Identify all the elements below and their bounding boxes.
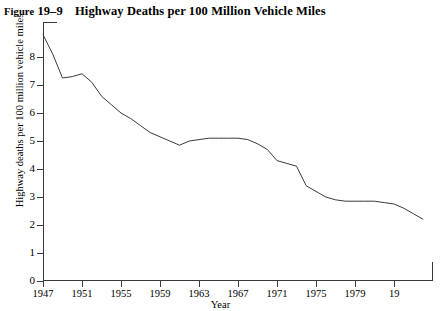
figure-container: Figure 19–9 Highway Deaths per 100 Milli… bbox=[0, 0, 441, 311]
series-polyline bbox=[43, 35, 423, 220]
data-series-line bbox=[0, 0, 441, 311]
